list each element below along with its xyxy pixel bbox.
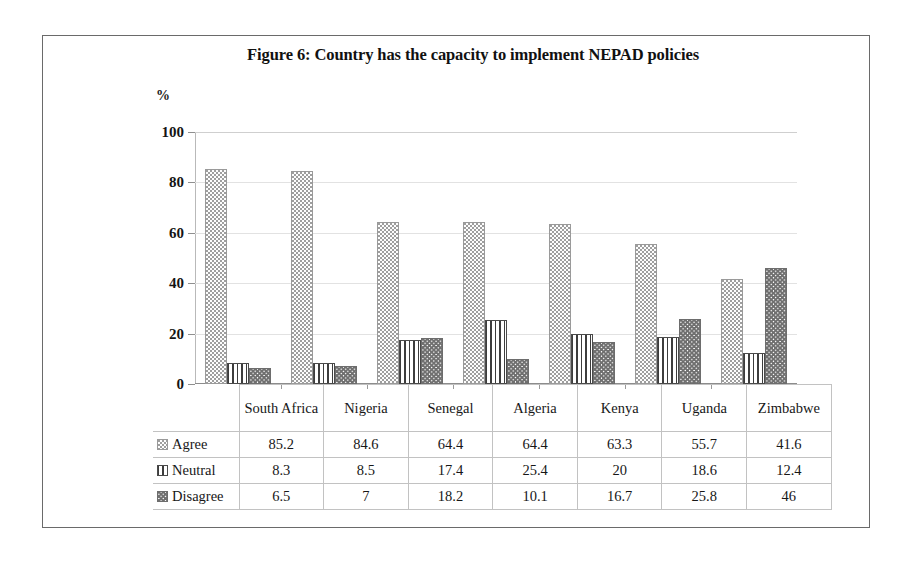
table-col-header-nigeria: Nigeria <box>324 385 409 432</box>
table-cell-disagree-algeria: 10.1 <box>493 484 578 510</box>
legend-row-disagree: Disagree <box>153 484 239 510</box>
table-cell-agree-kenya: 63.3 <box>577 432 662 458</box>
table-col-header-uganda: Uganda <box>662 385 747 432</box>
y-tick-label-60: 60 <box>169 224 184 241</box>
disagree-swatch-icon <box>157 491 168 502</box>
bar-agree-senegal <box>377 222 399 384</box>
bar-disagree-uganda <box>679 319 701 384</box>
bar-disagree-algeria <box>507 359 529 384</box>
table-cell-neutral-uganda: 18.6 <box>662 458 747 484</box>
table-row: Neutral8.38.517.425.42018.612.4 <box>153 458 831 484</box>
y-tick-80 <box>188 182 195 183</box>
table-cell-disagree-zimbabwe: 46 <box>747 484 832 510</box>
y-axis-unit-label: % <box>156 88 170 104</box>
bar-neutral-uganda <box>657 337 679 384</box>
bar-agree-uganda <box>635 244 657 384</box>
bar-group-nigeria <box>281 132 367 384</box>
bar-group-zimbabwe <box>711 132 797 384</box>
y-tick-20 <box>188 334 195 335</box>
bar-neutral-south-africa <box>227 363 249 384</box>
agree-swatch-icon <box>157 439 168 450</box>
bar-group-south-africa <box>195 132 281 384</box>
data-table: South AfricaNigeriaSenegalAlgeriaKenyaUg… <box>153 384 832 510</box>
bar-disagree-nigeria <box>335 366 357 384</box>
table-cell-disagree-kenya: 16.7 <box>577 484 662 510</box>
table-cell-disagree-uganda: 25.8 <box>662 484 747 510</box>
legend-label-neutral: Neutral <box>172 462 215 478</box>
bar-agree-algeria <box>463 222 485 384</box>
y-tick-label-40: 40 <box>169 275 184 292</box>
page-title: Figure 6: Country has the capacity to im… <box>163 44 783 65</box>
table-col-header-south-africa: South Africa <box>239 385 324 432</box>
y-tick-label-20: 20 <box>169 325 184 342</box>
bar-group-senegal <box>367 132 453 384</box>
y-tick-label-80: 80 <box>169 174 184 191</box>
table-cell-disagree-senegal: 18.2 <box>408 484 493 510</box>
table-col-header-kenya: Kenya <box>577 385 662 432</box>
bar-group-uganda <box>625 132 711 384</box>
legend-label-agree: Agree <box>172 436 207 452</box>
table-corner-cell <box>153 385 239 432</box>
bar-neutral-kenya <box>571 334 593 384</box>
y-tick-60 <box>188 233 195 234</box>
table-cell-neutral-kenya: 20 <box>577 458 662 484</box>
bar-agree-zimbabwe <box>721 279 743 384</box>
plot-inner: 020406080100 <box>195 132 797 384</box>
bar-disagree-kenya <box>593 342 615 384</box>
table-header-row: South AfricaNigeriaSenegalAlgeriaKenyaUg… <box>153 385 831 432</box>
bar-neutral-nigeria <box>313 363 335 384</box>
figure-frame: Figure 6: Country has the capacity to im… <box>42 35 870 528</box>
table-col-header-zimbabwe: Zimbabwe <box>747 385 832 432</box>
table-cell-agree-algeria: 64.4 <box>493 432 578 458</box>
table-cell-neutral-senegal: 17.4 <box>408 458 493 484</box>
bar-group-kenya <box>539 132 625 384</box>
table-cell-neutral-algeria: 25.4 <box>493 458 578 484</box>
bar-disagree-zimbabwe <box>765 268 787 384</box>
neutral-swatch-icon <box>157 465 168 476</box>
y-tick-100 <box>188 132 195 133</box>
table-cell-disagree-south-africa: 6.5 <box>239 484 324 510</box>
table-cell-neutral-zimbabwe: 12.4 <box>747 458 832 484</box>
bar-disagree-senegal <box>421 338 443 384</box>
table-cell-agree-zimbabwe: 41.6 <box>747 432 832 458</box>
legend-label-disagree: Disagree <box>172 488 224 504</box>
table-row: Agree85.284.664.464.463.355.741.6 <box>153 432 831 458</box>
chart-plot-area: 020406080100 <box>195 132 797 384</box>
table-cell-disagree-nigeria: 7 <box>324 484 409 510</box>
table-cell-neutral-south-africa: 8.3 <box>239 458 324 484</box>
table-cell-agree-senegal: 64.4 <box>408 432 493 458</box>
table-cell-agree-nigeria: 84.6 <box>324 432 409 458</box>
legend-row-agree: Agree <box>153 432 239 458</box>
bar-agree-south-africa <box>205 169 227 384</box>
table-cell-neutral-nigeria: 8.5 <box>324 458 409 484</box>
bar-group-algeria <box>453 132 539 384</box>
y-tick-label-100: 100 <box>162 124 185 141</box>
y-tick-40 <box>188 283 195 284</box>
bar-disagree-south-africa <box>249 368 271 384</box>
bar-neutral-algeria <box>485 320 507 384</box>
table-row: Disagree6.5718.210.116.725.846 <box>153 484 831 510</box>
table-col-header-senegal: Senegal <box>408 385 493 432</box>
table-col-header-algeria: Algeria <box>493 385 578 432</box>
bar-neutral-senegal <box>399 340 421 384</box>
bar-agree-nigeria <box>291 171 313 384</box>
legend-row-neutral: Neutral <box>153 458 239 484</box>
table-cell-agree-uganda: 55.7 <box>662 432 747 458</box>
bar-agree-kenya <box>549 224 571 384</box>
table-cell-agree-south-africa: 85.2 <box>239 432 324 458</box>
bar-neutral-zimbabwe <box>743 353 765 384</box>
